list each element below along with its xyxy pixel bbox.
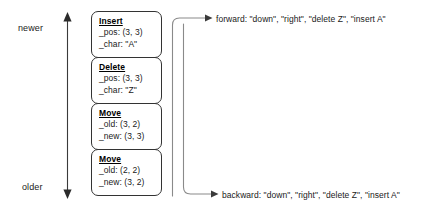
operation-title: Delete bbox=[99, 62, 161, 73]
operation-stack: Insert _pos: (3, 3) _char: "A" Delete _p… bbox=[91, 11, 162, 195]
operation-box-delete[interactable]: Delete _pos: (3, 3) _char: "Z" bbox=[91, 57, 162, 104]
forward-flow-path bbox=[173, 15, 213, 196]
diagram-line-layer bbox=[0, 0, 422, 216]
operation-field-old: _old: (2, 2) bbox=[99, 165, 161, 177]
operation-title: Insert bbox=[99, 16, 161, 27]
operation-field-old: _old: (3, 2) bbox=[99, 119, 161, 131]
operation-box-move-1[interactable]: Move _old: (3, 2) _new: (3, 3) bbox=[91, 103, 162, 150]
operation-field-pos: _pos: (3, 3) bbox=[99, 73, 161, 85]
operation-field-char: _char: "A" bbox=[99, 39, 161, 51]
operation-title: Move bbox=[99, 154, 161, 165]
operation-field-char: _char: "Z" bbox=[99, 85, 161, 97]
axis-label-newer: newer bbox=[18, 23, 43, 33]
axis-label-older: older bbox=[22, 182, 43, 192]
operation-field-pos: _pos: (3, 3) bbox=[99, 27, 161, 39]
forward-flow-label: forward: "down", "right", "delete Z", "i… bbox=[216, 14, 386, 24]
diagram-canvas: newer older Inse bbox=[0, 0, 422, 216]
operation-box-move-2[interactable]: Move _old: (2, 2) _new: (3, 2) bbox=[91, 149, 162, 196]
operation-field-new: _new: (3, 3) bbox=[99, 131, 161, 143]
time-axis-double-arrow bbox=[63, 12, 71, 199]
backward-flow-label: backward: "down", "right", "delete Z", "… bbox=[222, 190, 400, 200]
operation-field-new: _new: (3, 2) bbox=[99, 177, 161, 189]
backward-flow-path bbox=[184, 24, 219, 197]
operation-box-insert[interactable]: Insert _pos: (3, 3) _char: "A" bbox=[91, 11, 162, 58]
operation-title: Move bbox=[99, 108, 161, 119]
